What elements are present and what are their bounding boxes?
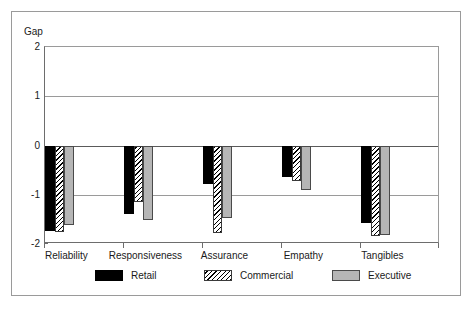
legend-label-retail: Retail <box>131 270 157 281</box>
plot-area <box>44 46 439 243</box>
x-tick-responsiveness <box>123 243 124 248</box>
x-label-empathy: Empathy <box>284 250 323 261</box>
x-label-tangibles: Tangibles <box>361 250 403 261</box>
bar-commercial-empathy <box>292 146 302 182</box>
y-tick-label-neg2: -2 <box>31 238 40 249</box>
x-label-reliability: Reliability <box>45 250 88 261</box>
chart-figure: Gap 2 1 0 -1 -2 ReliabilityResponsivenes… <box>0 0 474 313</box>
legend-swatch-commercial-icon <box>204 270 232 281</box>
bar-executive-tangibles <box>380 146 390 236</box>
gridline-1 <box>45 96 438 97</box>
bar-retail-assurance <box>203 146 213 185</box>
x-label-assurance: Assurance <box>201 250 248 261</box>
x-tick-end <box>438 243 439 248</box>
bar-retail-responsiveness <box>124 146 134 215</box>
bar-commercial-reliability <box>55 146 65 233</box>
bar-executive-assurance <box>222 146 232 219</box>
bar-executive-empathy <box>301 146 311 190</box>
bar-executive-responsiveness <box>143 146 153 221</box>
legend-label-executive: Executive <box>368 270 411 281</box>
y-tick-label-1: 1 <box>34 90 40 101</box>
legend-item-executive: Executive <box>332 268 411 282</box>
legend-swatch-executive-icon <box>332 270 360 281</box>
bar-commercial-assurance <box>213 146 223 233</box>
bar-retail-empathy <box>282 146 292 177</box>
legend-item-retail: Retail <box>95 268 157 282</box>
bar-retail-tangibles <box>361 146 371 223</box>
x-tick-tangibles <box>360 243 361 248</box>
x-tick-empathy <box>281 243 282 248</box>
y-tick-label-neg1: -1 <box>31 188 40 199</box>
bar-commercial-tangibles <box>371 146 381 237</box>
bar-commercial-responsiveness <box>134 146 144 203</box>
x-tick-assurance <box>202 243 203 248</box>
y-axis-title: Gap <box>24 26 43 37</box>
legend-label-commercial: Commercial <box>240 270 293 281</box>
x-label-responsiveness: Responsiveness <box>109 250 182 261</box>
y-tick-label-2: 2 <box>34 41 40 52</box>
y-tick-label-0: 0 <box>34 139 40 150</box>
y-axis-tick-labels: 2 1 0 -1 -2 <box>18 46 40 243</box>
legend-swatch-retail-icon <box>95 270 123 281</box>
bar-executive-reliability <box>64 146 74 226</box>
legend-item-commercial: Commercial <box>204 268 293 282</box>
x-tick-reliability <box>44 243 45 248</box>
bar-retail-reliability <box>45 146 55 231</box>
